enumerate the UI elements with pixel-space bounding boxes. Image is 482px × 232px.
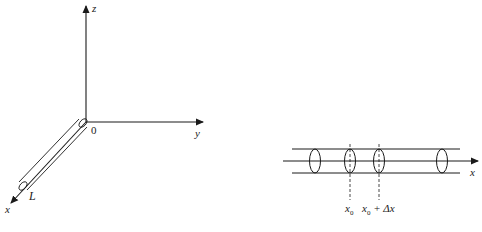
origin-label: 0 (91, 125, 97, 136)
z-axis-label: z (92, 3, 96, 14)
left-figure-axes (11, 6, 203, 203)
x0-plus-dx-label: x0 + Δx (362, 203, 395, 217)
x0-label: x0 (345, 203, 353, 217)
x-axis-label: x (5, 204, 10, 215)
rod-length-label: L (29, 190, 36, 202)
right-figure (283, 144, 478, 200)
x-axis-label-right: x (470, 167, 475, 178)
x-axis (11, 122, 86, 203)
diagram-canvas (0, 0, 482, 232)
rod (17, 117, 88, 191)
y-axis-label: y (195, 128, 200, 139)
